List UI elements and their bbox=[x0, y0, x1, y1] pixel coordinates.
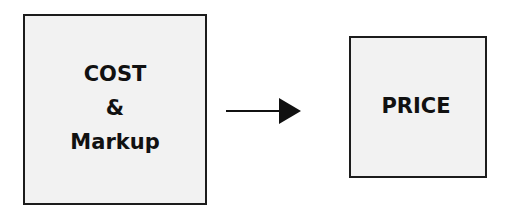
ampersand-label: & bbox=[106, 91, 124, 125]
right-arrow-icon bbox=[226, 98, 302, 124]
markup-label: Markup bbox=[70, 125, 159, 159]
cost-label: COST bbox=[84, 57, 147, 91]
price-label: PRICE bbox=[381, 94, 450, 118]
cost-markup-box: COST & Markup bbox=[23, 14, 207, 205]
price-box: PRICE bbox=[349, 36, 487, 178]
